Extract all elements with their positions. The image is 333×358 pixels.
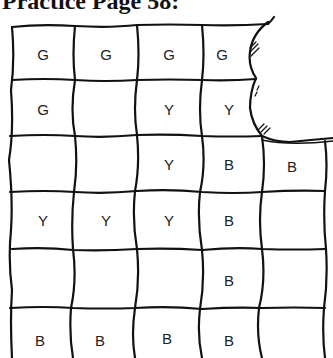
- grid-cell-label: Y: [38, 212, 48, 229]
- grid-cell-label: B: [224, 332, 234, 349]
- grid-cell-label: Y: [224, 101, 234, 118]
- grid-cell-label: Y: [164, 101, 174, 118]
- grid-cell-label: B: [224, 272, 234, 289]
- grid-cell-label: G: [37, 101, 49, 118]
- grid-cell-label: G: [216, 46, 228, 63]
- grid-cell-label: B: [35, 332, 45, 349]
- grid-cell-label: G: [100, 46, 112, 63]
- grid-cell-label: G: [163, 46, 175, 63]
- grid-cell-label: Y: [164, 156, 174, 173]
- grid-cell-label: Y: [101, 212, 111, 229]
- grid-cell-label: G: [37, 46, 49, 63]
- grid-cell-label: Y: [164, 212, 174, 229]
- grid-cell-label: B: [162, 330, 172, 347]
- grid-cell-label: B: [287, 158, 297, 175]
- grid-cell-label: B: [224, 156, 234, 173]
- grid-cell-label: B: [224, 212, 234, 229]
- grid-cell-label: B: [95, 332, 105, 349]
